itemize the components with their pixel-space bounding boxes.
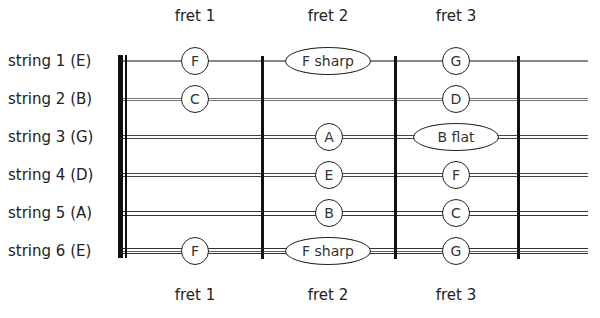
note-s6-f3: G	[442, 237, 470, 265]
note-s1-f2: F sharp	[285, 47, 371, 75]
string-label-1: string 1 (E)	[8, 51, 91, 71]
string-label-2: string 2 (B)	[8, 89, 92, 109]
note-s3-f2: A	[315, 123, 343, 151]
fret-label-bottom-3: fret 3	[416, 286, 496, 304]
fret-line-3	[517, 56, 520, 259]
note-s1-f1: F	[181, 47, 209, 75]
note-s4-f3: F	[442, 161, 470, 189]
note-s5-f3: C	[442, 199, 470, 227]
note-s5-f2: B	[315, 199, 343, 227]
fret-line-1	[261, 56, 264, 259]
string-label-4: string 4 (D)	[8, 165, 93, 185]
fret-line-2	[394, 56, 397, 259]
nut-bar	[118, 55, 123, 258]
note-s6-f1: F	[181, 237, 209, 265]
fret-label-bottom-1: fret 1	[155, 286, 235, 304]
nut-bar-thin	[125, 55, 127, 258]
note-s3-f3: B flat	[413, 123, 499, 151]
string-label-6: string 6 (E)	[8, 241, 91, 261]
string-label-5: string 5 (A)	[8, 203, 92, 223]
note-s2-f1: C	[181, 85, 209, 113]
string-label-3: string 3 (G)	[8, 127, 93, 147]
fret-label-bottom-2: fret 2	[288, 286, 368, 304]
fret-label-top-2: fret 2	[288, 7, 368, 25]
note-s4-f2: E	[315, 161, 343, 189]
note-s1-f3: G	[442, 47, 470, 75]
fret-label-top-1: fret 1	[155, 7, 235, 25]
fret-label-top-3: fret 3	[416, 7, 496, 25]
note-s2-f3: D	[442, 85, 470, 113]
note-s6-f2: F sharp	[285, 237, 371, 265]
